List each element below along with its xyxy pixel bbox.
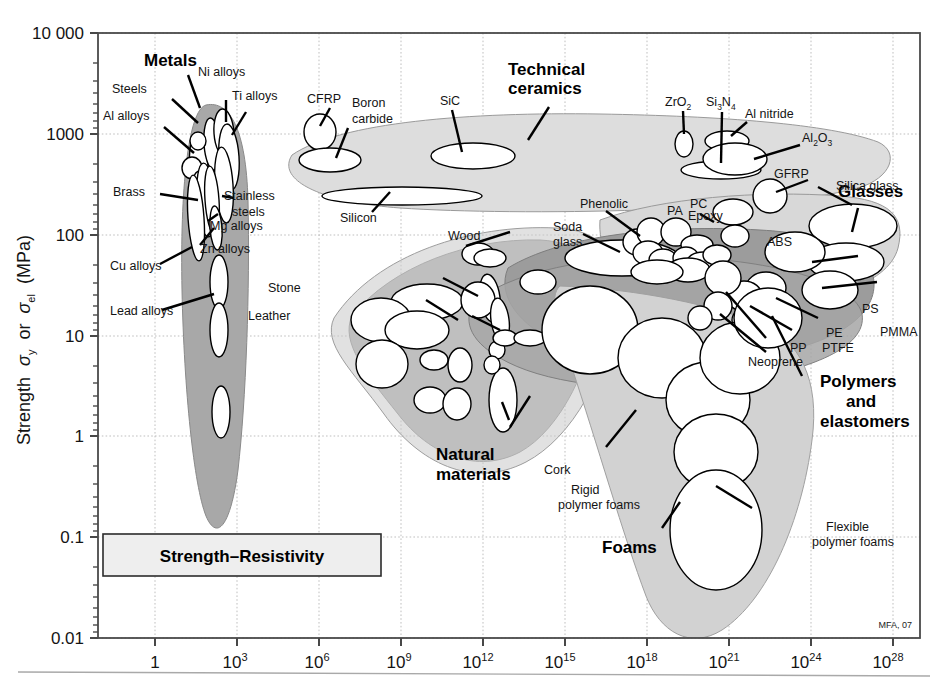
bubble-metal-lowest xyxy=(212,386,230,438)
bubble-lead-alloys-upper xyxy=(210,255,228,309)
y-tick-100: 100 xyxy=(56,226,84,245)
svg-text:elastomers: elastomers xyxy=(820,412,910,431)
svg-text:Technical: Technical xyxy=(508,60,585,79)
bubble-cfrp xyxy=(304,114,336,150)
label-ptfe: PTFE xyxy=(822,341,854,355)
label-steels: Steels xyxy=(112,82,147,96)
svg-text:ceramics: ceramics xyxy=(508,79,582,98)
label-flexible-foams-l1: Flexible xyxy=(826,520,869,534)
ashby-strength-resistivity-chart: 10 000 1000 100 10 1 0.1 0.01 1 103 106 … xyxy=(0,0,946,682)
label-pa: PA xyxy=(667,204,683,218)
label-stainless-steels-l1: Stainless xyxy=(224,189,275,203)
bubble-nat-j xyxy=(514,330,546,346)
label-lead-alloys: Lead alloys xyxy=(110,304,173,318)
label-sic: SiC xyxy=(440,94,460,108)
y-tick-10000: 10 000 xyxy=(32,24,84,43)
bubble-nat-d xyxy=(448,348,472,382)
bubble-nat-e xyxy=(414,387,446,413)
bubble-nat-f xyxy=(443,388,471,420)
label-pmma: PMMA xyxy=(880,325,918,339)
svg-text:materials: materials xyxy=(436,465,511,484)
label-silicon: Silicon xyxy=(340,211,377,225)
label-silica-glass: Silica glass xyxy=(836,179,899,193)
label-stone: Stone xyxy=(268,281,301,295)
label-cork: Cork xyxy=(544,463,571,477)
bubble-lead-alloys-lower xyxy=(210,303,228,357)
label-ti-alloys: Ti alloys xyxy=(232,89,277,103)
bubble-nat-k xyxy=(520,270,556,294)
label-epoxy: Epoxy xyxy=(688,209,723,223)
label-boron-carbide-l2: carbide xyxy=(352,112,393,126)
svg-text:Polymers: Polymers xyxy=(820,372,897,391)
label-mg-alloys: Mg alloys xyxy=(210,219,263,233)
bubble-foam-g xyxy=(734,288,802,348)
label-cu-alloys: Cu alloys xyxy=(110,259,161,273)
chart-title-box: Strength–Resistivity xyxy=(103,534,381,576)
label-soda-glass-l1: Soda xyxy=(553,220,582,234)
label-ni-alloys: Ni alloys xyxy=(198,65,245,79)
bubble-nat-b xyxy=(356,340,408,388)
x-tick-1: 1 xyxy=(150,653,159,672)
y-tick-10: 10 xyxy=(65,327,84,346)
label-gfrp: GFRP xyxy=(774,167,809,181)
chart-title-text: Strength–Resistivity xyxy=(160,547,325,566)
label-pe: PE xyxy=(826,326,843,340)
label-phenolic: Phenolic xyxy=(580,197,628,211)
y-tick-1000: 1000 xyxy=(46,125,84,144)
bubble-nat-c xyxy=(420,350,448,370)
bubble-abs xyxy=(721,225,749,247)
bubble-sic xyxy=(431,143,515,169)
y-tick-1: 1 xyxy=(75,427,84,446)
family-label-metals: Metals xyxy=(144,51,197,70)
svg-text:and: and xyxy=(846,392,876,411)
y-tick-0.1: 0.1 xyxy=(60,528,84,547)
label-soda-glass-l2: glass xyxy=(553,235,582,249)
label-neoprene: Neoprene xyxy=(748,355,803,369)
label-abs: ABS xyxy=(767,235,792,249)
bubble-silicon xyxy=(322,187,482,205)
label-ps: PS xyxy=(862,302,879,316)
bubble-poly-g xyxy=(631,260,683,284)
label-al-alloys: Al alloys xyxy=(103,109,150,123)
label-brass: Brass xyxy=(113,185,145,199)
bubble-poly-i xyxy=(688,306,712,330)
credit-text: MFA, 07 xyxy=(878,620,912,630)
bubble-small-metal-a xyxy=(190,132,206,150)
label-leather: Leather xyxy=(248,309,290,323)
bubble-wood-b xyxy=(474,249,506,267)
label-rigid-foams-l2: polymer foams xyxy=(558,498,640,512)
bubble-nat-i xyxy=(484,356,500,374)
bubble-zro2 xyxy=(675,131,693,157)
family-label-technical-ceramics: Technical ceramics xyxy=(508,60,585,98)
y-tick-0.01: 0.01 xyxy=(51,629,84,648)
chart-canvas: 10 000 1000 100 10 1 0.1 0.01 1 103 106 … xyxy=(0,0,946,682)
label-rigid-foams-l1: Rigid xyxy=(571,483,600,497)
bubble-flexible-foam xyxy=(670,470,762,590)
label-boron-carbide-l1: Boron xyxy=(352,96,385,110)
bubble-pmma xyxy=(802,271,858,309)
bubble-gfrp xyxy=(753,179,787,213)
label-pp: PP xyxy=(790,341,807,355)
bubble-boron-carbide xyxy=(299,148,361,172)
label-stainless-steels-l2: steels xyxy=(232,205,265,219)
family-label-foams: Foams xyxy=(602,538,657,557)
label-al-nitride: Al nitride xyxy=(745,107,794,121)
label-cfrp: CFRP xyxy=(307,92,341,106)
svg-text:Natural: Natural xyxy=(436,445,495,464)
bubble-pp xyxy=(705,261,741,295)
label-flexible-foams-l2: polymer foams xyxy=(812,535,894,549)
label-wood: Wood xyxy=(448,229,480,243)
label-zn-alloys: Zn alloys xyxy=(200,242,250,256)
